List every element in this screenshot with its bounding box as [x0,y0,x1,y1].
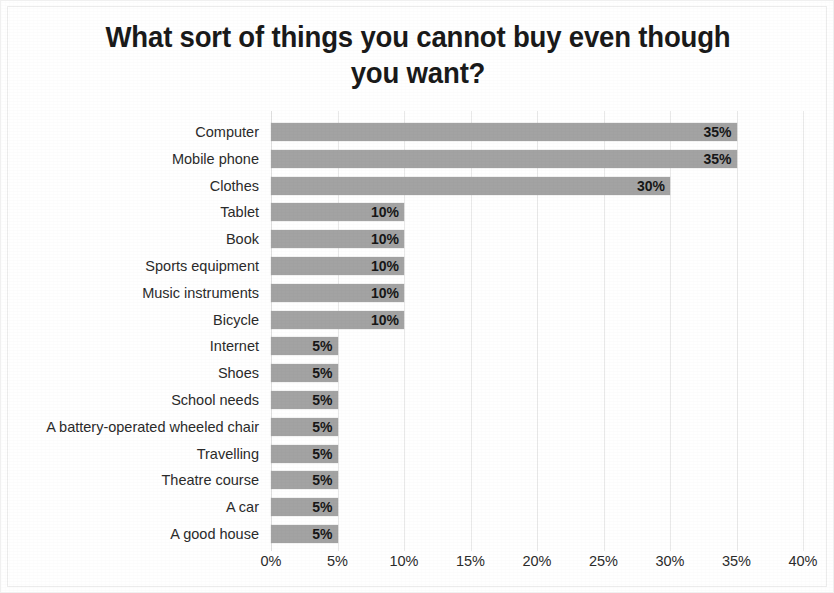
bar-track: 10% [271,257,404,275]
bar-track: 5% [271,498,338,516]
bar-track: 5% [271,418,338,436]
bar: 5% [271,391,338,409]
chart-title-line-1: What sort of things you cannot buy even … [88,19,747,55]
bar: 10% [271,311,404,329]
x-tick-label: 25% [574,553,634,569]
bar-row: Travelling5% [1,441,834,468]
bar-track: 10% [271,203,404,221]
x-tick-label: 10% [374,553,434,569]
category-label: Computer [195,119,259,146]
bar-track: 10% [271,230,404,248]
bar-track: 30% [271,177,670,195]
bar: 35% [271,150,737,168]
bar-track: 35% [271,150,737,168]
bar: 30% [271,177,670,195]
bar: 35% [271,123,737,141]
bar-row: A battery-operated wheeled chair5% [1,414,834,441]
bar-value-label: 10% [371,230,399,248]
bar-track: 5% [271,337,338,355]
bar-row: Bicycle10% [1,307,834,334]
category-label: Music instruments [142,280,259,307]
x-tick-label: 5% [308,553,368,569]
x-tick-label: 30% [640,553,700,569]
bar: 5% [271,418,338,436]
category-label: Clothes [210,173,259,200]
bar: 5% [271,337,338,355]
bar-value-label: 10% [371,257,399,275]
category-label: Internet [210,333,259,360]
category-label: A good house [170,521,259,548]
bar: 5% [271,445,338,463]
bar-row: Clothes30% [1,173,834,200]
bar-value-label: 10% [371,284,399,302]
category-label: Sports equipment [145,253,259,280]
x-axis-tick-labels: 0%5%10%15%20%25%30%35%40% [1,553,834,583]
bar-value-label: 5% [312,445,332,463]
bar: 10% [271,284,404,302]
bar-value-label: 5% [312,498,332,516]
bar-value-label: 5% [312,391,332,409]
category-label: Travelling [197,441,259,468]
bar: 5% [271,498,338,516]
bar-series: Computer35%Mobile phone35%Clothes30%Tabl… [1,111,834,551]
bar-track: 10% [271,284,404,302]
bar-row: Music instruments10% [1,280,834,307]
category-label: Bicycle [213,307,259,334]
bar-value-label: 10% [371,311,399,329]
bar-track: 5% [271,525,338,543]
bar-value-label: 5% [312,525,332,543]
category-label: School needs [171,387,259,414]
bar-value-label: 10% [371,203,399,221]
chart-title: What sort of things you cannot buy even … [88,19,747,91]
x-tick-label: 35% [707,553,767,569]
bar-row: Shoes5% [1,360,834,387]
bar-track: 5% [271,471,338,489]
bar-track: 5% [271,445,338,463]
x-tick-label: 40% [773,553,833,569]
bar: 5% [271,471,338,489]
category-label: Shoes [218,360,259,387]
bar: 10% [271,230,404,248]
bar-row: A car5% [1,494,834,521]
bar: 5% [271,525,338,543]
bar-track: 35% [271,123,737,141]
bar-track: 5% [271,391,338,409]
bar-row: Theatre course5% [1,467,834,494]
bar-row: Mobile phone35% [1,146,834,173]
bar-value-label: 5% [312,337,332,355]
bar: 5% [271,364,338,382]
category-label: A battery-operated wheeled chair [46,414,259,441]
x-tick-label: 0% [241,553,301,569]
bar-value-label: 30% [637,177,665,195]
x-tick-label: 15% [441,553,501,569]
category-label: Book [226,226,259,253]
plot-area: Computer35%Mobile phone35%Clothes30%Tabl… [1,111,834,551]
chart-title-line-2: you want? [88,55,747,91]
bar-value-label: 5% [312,364,332,382]
category-label: A car [226,494,259,521]
category-label: Theatre course [161,467,259,494]
bar-row: School needs5% [1,387,834,414]
bar-value-label: 5% [312,471,332,489]
category-label: Tablet [220,199,259,226]
x-tick-label: 20% [507,553,567,569]
category-label: Mobile phone [172,146,259,173]
bar-row: Internet5% [1,333,834,360]
bar-track: 10% [271,311,404,329]
bar-track: 5% [271,364,338,382]
bar-row: Computer35% [1,119,834,146]
bar-value-label: 35% [703,150,731,168]
bar-chart-image: What sort of things you cannot buy even … [0,0,834,593]
bar-row: Tablet10% [1,199,834,226]
bar: 10% [271,203,404,221]
bar: 10% [271,257,404,275]
bar-value-label: 5% [312,418,332,436]
bar-row: Sports equipment10% [1,253,834,280]
bar-value-label: 35% [703,123,731,141]
bar-row: Book10% [1,226,834,253]
bar-row: A good house5% [1,521,834,548]
